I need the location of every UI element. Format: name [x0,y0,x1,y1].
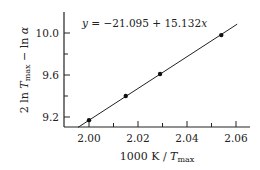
data-point [158,72,162,76]
x-tick-label: 2.00 [77,132,100,144]
x-tick-label: 2.04 [175,132,199,144]
fit-line [78,24,237,127]
x-tick-label: 2.06 [224,132,248,144]
x-axis-title: 1000 K / Tmax [120,150,195,164]
y-tick-label: 9.6 [42,69,59,81]
x-tick-label: 2.02 [126,132,149,144]
plot-area [78,24,237,127]
data-point [219,33,223,37]
y-tick-label: 10.0 [36,27,59,39]
chart: 2.00 2.02 2.04 2.06 9.2 9.6 10.0 1000 K … [0,0,260,170]
y-tick-label: 9.2 [42,111,59,123]
fit-equation: y = −21.095 + 15.132x [81,17,207,29]
x-ticks [89,121,236,127]
data-point [124,94,128,98]
y-axis-title: 2 ln Tmax − ln α [18,26,32,113]
data-point [87,118,91,122]
y-ticks [64,33,70,117]
